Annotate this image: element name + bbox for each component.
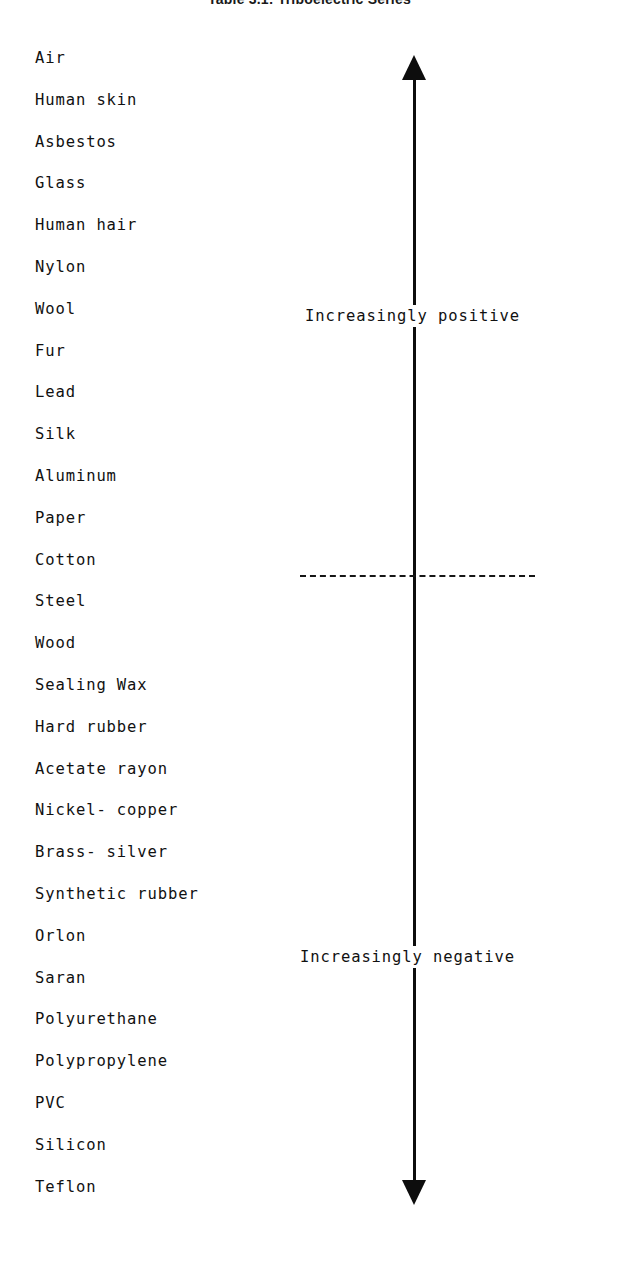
- material-row: Silk: [35, 424, 325, 466]
- material-row: Hard rubber: [35, 717, 325, 759]
- material-row: Polypropylene: [35, 1051, 325, 1093]
- material-row: Polyurethane: [35, 1009, 325, 1051]
- material-row: Glass: [35, 173, 325, 215]
- material-row: Brass- silver: [35, 842, 325, 884]
- neutral-divider-dashed-line: [300, 575, 535, 577]
- material-row: Human skin: [35, 90, 325, 132]
- figure-title: Table 3.1: Triboelectric Series: [0, 0, 619, 7]
- material-row: Lead: [35, 382, 325, 424]
- material-row: Silicon: [35, 1135, 325, 1177]
- material-row: Steel: [35, 591, 325, 633]
- material-row: Cotton: [35, 550, 325, 592]
- axis-label-negative: Increasingly negative: [300, 946, 515, 968]
- material-row: Synthetic rubber: [35, 884, 325, 926]
- material-list: AirHuman skinAsbestosGlassHuman hairNylo…: [35, 48, 325, 1218]
- triboelectric-series-figure: Table 3.1: Triboelectric Series AirHuman…: [0, 0, 619, 1275]
- material-row: PVC: [35, 1093, 325, 1135]
- material-row: Acetate rayon: [35, 759, 325, 801]
- material-row: Asbestos: [35, 132, 325, 174]
- material-row: Nickel- copper: [35, 800, 325, 842]
- material-row: Paper: [35, 508, 325, 550]
- material-row: Orlon: [35, 926, 325, 968]
- material-row: Fur: [35, 341, 325, 383]
- material-row: Saran: [35, 968, 325, 1010]
- material-row: Human hair: [35, 215, 325, 257]
- material-row: Wood: [35, 633, 325, 675]
- material-row: Sealing Wax: [35, 675, 325, 717]
- material-row: Air: [35, 48, 325, 90]
- material-row: Teflon: [35, 1177, 325, 1219]
- material-row: Aluminum: [35, 466, 325, 508]
- arrow-up-icon: [402, 55, 426, 80]
- polarity-axis-line: [413, 66, 416, 1196]
- arrow-down-icon: [402, 1180, 426, 1205]
- axis-label-positive: Increasingly positive: [305, 305, 520, 327]
- material-row: Wool: [35, 299, 325, 341]
- material-row: Nylon: [35, 257, 325, 299]
